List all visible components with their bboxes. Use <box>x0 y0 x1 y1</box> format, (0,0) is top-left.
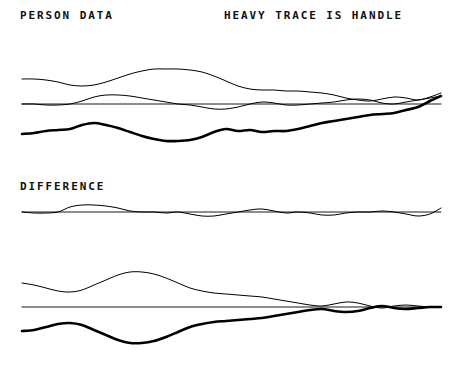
lower-panel <box>22 272 441 344</box>
trace-upper-thin-trace <box>22 69 441 101</box>
trace-handle-heavy-trace <box>22 96 441 141</box>
difference-panel <box>22 205 441 216</box>
person-data-panel <box>22 69 441 141</box>
trace-middle-thin-oscillation <box>22 95 441 109</box>
trace-handle-heavy-trace <box>22 306 441 343</box>
panels-group <box>22 69 441 343</box>
trace-upper-thin-trace <box>22 272 441 308</box>
waveform-plot <box>0 0 457 372</box>
chart-canvas: PERSON DATA HEAVY TRACE IS HANDLE DIFFER… <box>0 0 457 372</box>
trace-difference-thin-trace <box>22 205 441 216</box>
